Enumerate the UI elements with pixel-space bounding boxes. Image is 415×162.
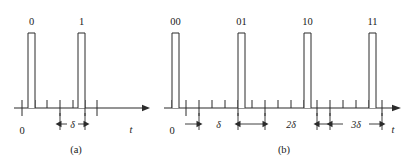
panel-b-pulse-01 <box>238 33 245 108</box>
panel-b: 00 01 10 11 0 t <box>164 16 401 156</box>
panel-b-symbol-label-11: 11 <box>367 16 377 27</box>
panel-b-pulse-00 <box>172 33 179 108</box>
panel-a-symbol-label-1: 1 <box>79 16 84 27</box>
panel-b-dimension-2delta: 2δ <box>252 113 330 130</box>
panel-a-dimension-delta: δ <box>56 113 90 130</box>
panel-b-pulse-11 <box>369 33 376 108</box>
panel-a-origin-label: 0 <box>19 125 24 136</box>
panel-b-dimension-label-2delta: 2δ <box>286 119 296 130</box>
panel-a-symbol-label-0: 0 <box>29 16 34 27</box>
ppm-figure: 0 1 0 t δ (a) <box>0 0 415 162</box>
panel-b-caption: (b) <box>278 144 291 156</box>
panel-b-origin-label: 0 <box>169 125 174 136</box>
panel-b-dimension-3delta: 3δ <box>327 113 386 130</box>
panel-a-pulse-0 <box>28 33 35 108</box>
panel-b-pulse-10 <box>304 33 311 108</box>
panel-a-axis-label: t <box>130 124 134 135</box>
panel-b-symbol-label-00: 00 <box>170 16 181 27</box>
panel-a-caption: (a) <box>70 144 82 156</box>
figure-root: 0 1 0 t δ (a) <box>0 0 415 162</box>
panel-b-axis-arrow-icon <box>392 105 401 111</box>
panel-b-symbol-label-10: 10 <box>302 16 313 27</box>
panel-b-dimension-delta: δ <box>185 113 252 130</box>
panel-a-dimension-label-delta: δ <box>70 119 75 130</box>
panel-b-dimension-label-3delta: 3δ <box>350 119 361 130</box>
panel-a: 0 1 0 t δ (a) <box>14 16 150 156</box>
panel-a-axis-arrow-icon <box>142 105 150 111</box>
panel-a-pulse-1 <box>78 33 85 108</box>
panel-b-axis-label: t <box>392 124 396 135</box>
panel-b-symbol-label-01: 01 <box>236 16 247 27</box>
panel-b-dimension-label-delta: δ <box>216 119 221 130</box>
